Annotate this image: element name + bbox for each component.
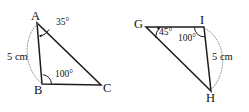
- vertex-label-h: H: [206, 92, 215, 105]
- angle-label-g: 45°: [159, 28, 172, 38]
- vertex-label-a: A: [31, 10, 40, 23]
- length-label-ab: 5 cm: [7, 52, 28, 63]
- angle-arc-b: [43, 75, 52, 85]
- vertex-label-b: B: [34, 84, 42, 97]
- vertex-label-g: G: [134, 18, 143, 31]
- angle-label-a: 35°: [56, 18, 69, 28]
- angle-label-b: 100°: [55, 70, 73, 80]
- length-label-ih: 5 cm: [212, 52, 233, 63]
- angle-label-i: 100°: [178, 34, 196, 44]
- vertex-label-i: I: [200, 14, 204, 27]
- vertex-label-c: C: [103, 82, 111, 95]
- geometry-figure: A B C 35° 100° 5 cm G I H 45° 100° 5 cm: [0, 0, 249, 112]
- angle-arc-i: [195, 27, 206, 37]
